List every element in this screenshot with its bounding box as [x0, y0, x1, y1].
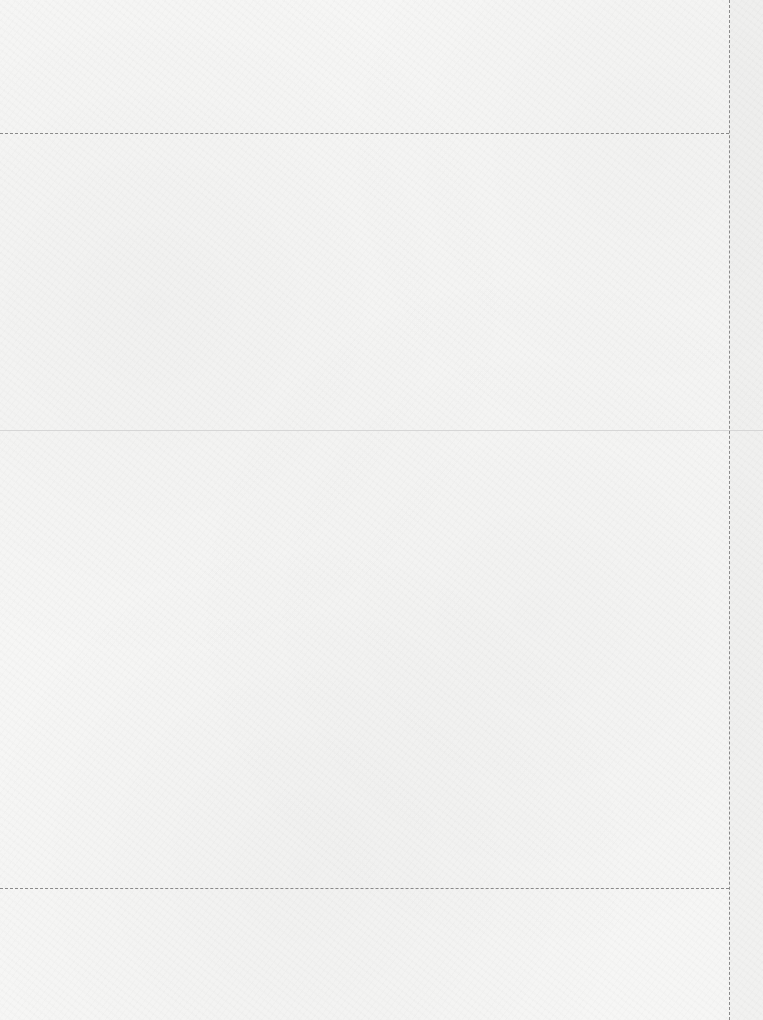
middle-divider-line	[0, 430, 763, 431]
bottom-dashed-guide-line	[0, 888, 729, 889]
blank-paper-page	[0, 0, 763, 1020]
right-margin-strip	[730, 0, 763, 1020]
right-dashed-guide-line	[729, 0, 730, 1020]
top-dashed-guide-line	[0, 133, 729, 134]
